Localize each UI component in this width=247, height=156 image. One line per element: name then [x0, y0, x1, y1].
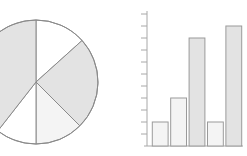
bar-chart-y-ticks [141, 14, 147, 134]
bar [189, 38, 205, 146]
bar [152, 122, 168, 146]
bar-chart-panel [130, 0, 247, 156]
pie-slice-group [0, 20, 98, 144]
bar-chart [130, 0, 247, 156]
pie-chart-panel [0, 0, 120, 156]
figure-root [0, 0, 247, 156]
bar [226, 26, 242, 146]
bar [207, 122, 223, 146]
pie-chart [0, 0, 120, 156]
bar [171, 98, 187, 146]
bar-group [152, 26, 241, 146]
